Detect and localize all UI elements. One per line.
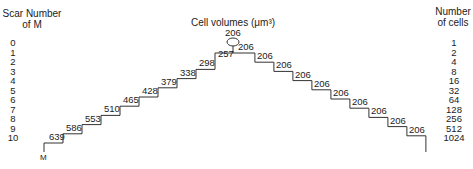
mother-volume-label: 428 — [142, 86, 158, 96]
daughter-volume-label: 206 — [333, 88, 349, 98]
mother-volume-label: 510 — [104, 104, 120, 114]
daughter-volume-label: 206 — [390, 116, 406, 126]
daughter-volume-label: 206 — [409, 125, 425, 135]
mother-volume-label: 298 — [199, 58, 215, 68]
mother-volume-label: 553 — [85, 114, 101, 124]
mother-volume-label: 257 — [218, 49, 234, 59]
mother-volume-label: 639 — [49, 132, 65, 142]
daughter-volume-label: 206 — [352, 97, 368, 107]
daughter-volume-label: 206 — [276, 60, 292, 70]
mother-volume-label: 379 — [161, 77, 177, 87]
mother-volume-label: 586 — [66, 123, 82, 133]
daughter-volume-label: 206 — [314, 79, 330, 89]
mother-volume-label: 465 — [123, 95, 139, 105]
mother-volume-label: 338 — [180, 68, 196, 78]
daughter-volume-label: 206 — [238, 42, 254, 52]
daughter-volume-label: 206 — [371, 106, 387, 116]
daughter-volume-label: 206 — [257, 51, 273, 61]
daughter-volume-label: 206 — [295, 70, 311, 80]
staircase-diagram — [0, 0, 473, 169]
